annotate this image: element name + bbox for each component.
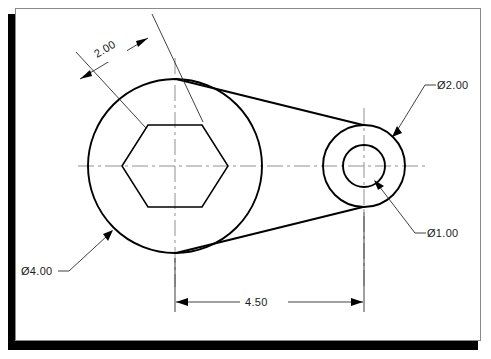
dim-label-d1-00: Ø1.00 — [427, 227, 458, 239]
arrow-head-4-50-left — [176, 298, 188, 306]
dimension-hex-across-flats: 2.00 — [76, 14, 203, 128]
ext-line-hex-upper — [152, 14, 203, 122]
cad-drawing-screenshot: 2.00 Ø4.00 Ø2.00 Ø1.00 — [0, 0, 491, 359]
centerlines-group — [78, 58, 428, 287]
dimension-small-bore-diameter: Ø1.00 — [374, 180, 458, 239]
arrow-head-2-00-left — [80, 70, 92, 79]
technical-drawing-canvas: 2.00 Ø4.00 Ø2.00 Ø1.00 — [0, 0, 491, 359]
arrow-head-4-50-right — [351, 298, 363, 306]
dimension-center-distance: 4.50 — [175, 212, 364, 312]
dimension-small-boss-diameter: Ø2.00 — [392, 79, 468, 137]
dim-label-d4-00: Ø4.00 — [21, 265, 52, 277]
leader-line-d1-00 — [379, 186, 415, 233]
upper-tangent-line — [176, 79, 363, 125]
dim-label-d2-00: Ø2.00 — [437, 79, 468, 91]
dimension-large-bore-diameter: Ø4.00 — [21, 230, 113, 277]
arrow-head-2-00-right — [136, 38, 148, 47]
leader-line-d4-00 — [69, 236, 107, 271]
arrow-head-d2-00 — [392, 126, 402, 137]
lower-tangent-line — [176, 207, 363, 253]
arrow-head-d4-00 — [103, 230, 113, 241]
ext-line-hex-lower — [76, 52, 146, 128]
dim-label-4-50: 4.50 — [245, 296, 268, 308]
leader-line-d2-00 — [398, 85, 425, 129]
